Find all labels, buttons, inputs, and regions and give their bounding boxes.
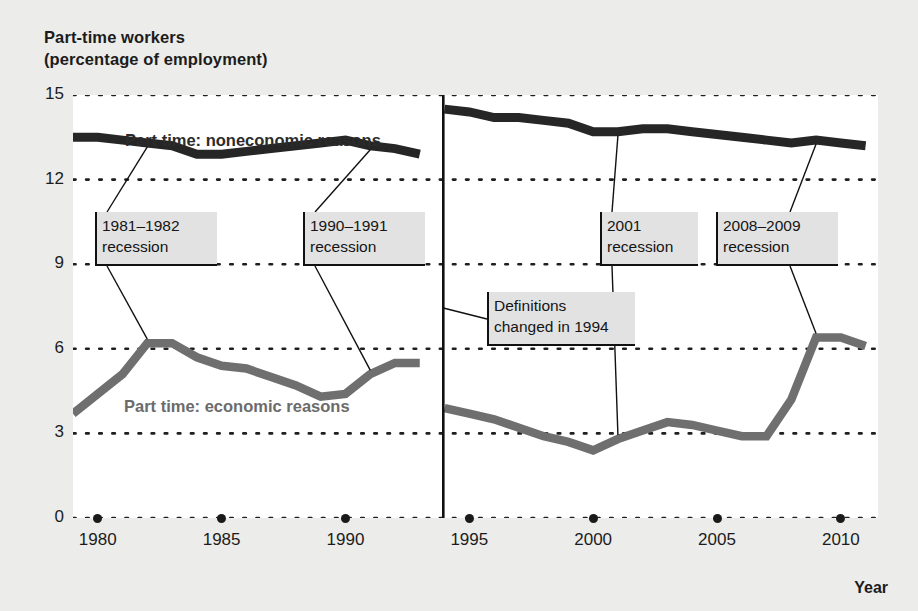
x-tick-1980: 1980 <box>79 530 117 550</box>
x-tick-dot-1995 <box>465 514 474 523</box>
annotation-definitions-1994: Definitions changed in 1994 <box>487 292 635 346</box>
x-axis-title: Year <box>854 579 888 597</box>
x-tick-2005: 2005 <box>698 530 736 550</box>
chart-title: Part-time workers (percentage of employm… <box>44 26 268 70</box>
y-tick-12: 12 <box>30 169 64 189</box>
x-tick-2000: 2000 <box>574 530 612 550</box>
series-label-noneconomic: Part time: noneconomic reasons <box>125 131 381 150</box>
chart-title-line1: Part-time workers <box>44 28 185 46</box>
annotation-rec-2008: 2008–2009 recession <box>716 212 838 266</box>
y-tick-15: 15 <box>30 84 64 104</box>
x-tick-dot-2010 <box>836 514 845 523</box>
leader-line-lower-1991 <box>315 266 370 370</box>
y-tick-3: 3 <box>30 422 64 442</box>
gridlines <box>73 95 878 518</box>
leader-line-upper-2001 <box>612 136 618 212</box>
x-tick-dot-2005 <box>713 514 722 523</box>
x-tick-dot-1980 <box>93 514 102 523</box>
leader-line-lower-1982 <box>107 266 147 339</box>
x-tick-dot-1990 <box>341 514 350 523</box>
leader-line-upper-2009 <box>790 144 816 212</box>
y-tick-9: 9 <box>30 253 64 273</box>
annotation-rec-1981: 1981–1982 recession <box>95 212 217 266</box>
plot-svg <box>73 95 878 518</box>
annotation-rec-2001: 2001 recession <box>600 212 698 266</box>
annotation-rec-1990: 1990–1991 recession <box>303 212 425 266</box>
series-label-economic: Part time: economic reasons <box>124 397 350 416</box>
x-tick-1990: 1990 <box>327 530 365 550</box>
chart-title-line2: (percentage of employment) <box>44 50 268 68</box>
leader-lines <box>107 136 816 435</box>
y-tick-0: 0 <box>30 507 64 527</box>
y-tick-6: 6 <box>30 338 64 358</box>
plot-area <box>73 95 878 518</box>
x-tick-dot-2000 <box>589 514 598 523</box>
x-tick-1985: 1985 <box>203 530 241 550</box>
x-tick-1995: 1995 <box>450 530 488 550</box>
series-line-noneconomic <box>445 109 866 146</box>
x-tick-2010: 2010 <box>822 530 860 550</box>
x-tick-dot-1985 <box>217 514 226 523</box>
leader-line-definitions-1994 <box>443 308 487 319</box>
leader-line-lower-2009 <box>790 266 816 334</box>
figure-canvas: Part-time workers (percentage of employm… <box>0 0 918 611</box>
